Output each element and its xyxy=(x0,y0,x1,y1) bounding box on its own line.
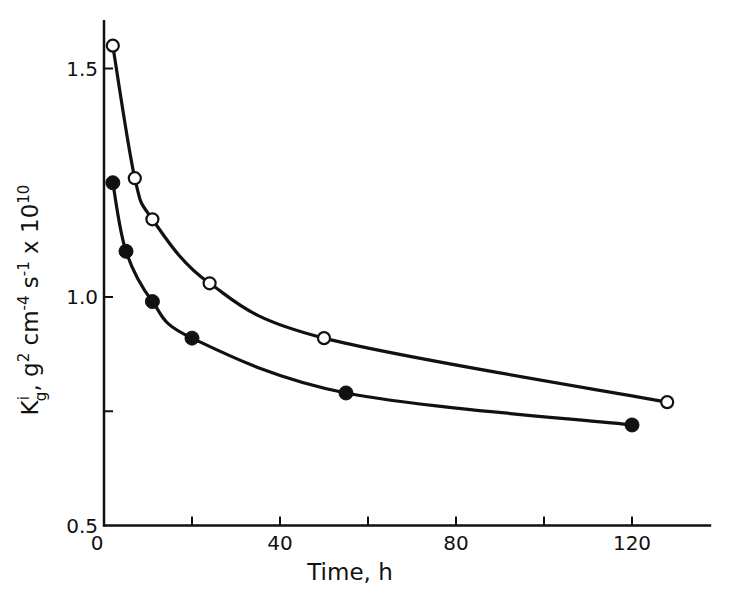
x-tick-label: 120 xyxy=(613,531,651,555)
y-tick-label: 0.5 xyxy=(66,514,98,538)
fitted-curves xyxy=(113,46,667,425)
filled-circle-marker xyxy=(185,331,199,345)
y-axis-title: Kig, g2 cm-4 s-1 x 1010 xyxy=(15,185,50,416)
x-tick-label: 40 xyxy=(267,531,292,555)
open-circle-marker xyxy=(146,213,158,225)
axes xyxy=(103,20,711,527)
svg-text:Kig, g2 cm-4 s-1 x 1010: Kig, g2 cm-4 s-1 x 1010 xyxy=(15,185,50,416)
filled-circle-marker xyxy=(625,418,639,432)
filled-circle-marker xyxy=(339,386,353,400)
open-circle-marker xyxy=(661,396,673,408)
x-axis-title: Time, h xyxy=(306,559,393,585)
filled-circle-marker xyxy=(106,176,120,190)
y-tick-label: 1.0 xyxy=(66,285,98,309)
open-circle-marker xyxy=(129,172,141,184)
curve-open-circle xyxy=(113,46,667,402)
chart: 040801200.51.01.5 Time, h Kig, g2 cm-4 s… xyxy=(0,0,742,614)
filled-circle-marker xyxy=(119,244,133,258)
open-circle-marker xyxy=(204,277,216,289)
open-circle-marker xyxy=(318,332,330,344)
filled-circle-marker xyxy=(145,295,159,309)
y-tick-label: 1.5 xyxy=(66,57,98,81)
data-points xyxy=(106,40,673,432)
open-circle-marker xyxy=(107,40,119,52)
curve-filled-circle xyxy=(113,183,632,425)
x-tick-label: 80 xyxy=(443,531,468,555)
